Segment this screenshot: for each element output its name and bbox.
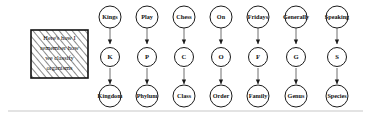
note-line-3: we classify [45, 54, 74, 61]
node-rank-4-label: Order [213, 92, 230, 99]
note-line-2: remember how [40, 44, 79, 51]
node-rank-5-label: Family [249, 92, 268, 99]
figure-canvas: Here's how I remember how we classify or… [0, 0, 371, 115]
node-rank-3-label: Class [177, 92, 192, 99]
node-mnemonic-1-label: Kings [102, 13, 118, 20]
node-mnemonic-6-label: Generally [283, 13, 310, 20]
node-mnemonic-7-label: Speaking [325, 13, 350, 20]
node-rank-7-label: Species [327, 92, 347, 99]
node-letter-2-label: P [145, 53, 149, 60]
node-letter-7-label: S [335, 53, 339, 60]
node-mnemonic-3-label: Chess [176, 13, 192, 20]
node-letter-6-label: G [293, 53, 298, 60]
node-letter-1-label: K [107, 53, 113, 60]
node-letter-5-label: F [256, 53, 260, 60]
column-species: Speaking S Species [325, 6, 350, 107]
mnemonic-taxonomy-diagram: Here's how I remember how we classify or… [0, 0, 371, 115]
column-genus: Generally G Genus [283, 6, 310, 107]
node-letter-4-label: O [218, 53, 223, 60]
note-line-4: organisms [46, 64, 73, 71]
node-rank-2-label: Phylum [137, 92, 158, 99]
column-order: On O Order [210, 6, 232, 107]
node-rank-1-label: Kingdom [98, 92, 124, 99]
node-mnemonic-2-label: Play [141, 13, 154, 20]
note-line-1: Here's how I [43, 34, 75, 41]
column-kingdom: Kings K Kingdom [98, 6, 124, 107]
node-mnemonic-4-label: On [217, 13, 226, 20]
node-rank-6-label: Genus [288, 92, 305, 99]
node-letter-3-label: C [182, 53, 187, 60]
column-class: Chess C Class [173, 6, 195, 107]
node-mnemonic-5-label: Fridays [248, 13, 269, 20]
note-box: Here's how I remember how we classify or… [31, 30, 88, 78]
column-family: Fridays F Family [247, 6, 269, 107]
column-phylum: Play P Phylum [136, 6, 158, 107]
